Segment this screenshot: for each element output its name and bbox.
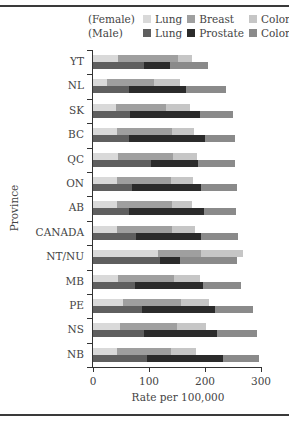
female-stacked-bar bbox=[93, 275, 200, 282]
y-tick-label: BC bbox=[68, 128, 84, 140]
y-tick-label: NT/NU bbox=[46, 250, 84, 262]
y-tick bbox=[87, 74, 92, 75]
bar-segment bbox=[129, 135, 205, 142]
male-stacked-bar bbox=[93, 86, 226, 93]
y-tick-label: NL bbox=[68, 79, 84, 91]
y-tick-label: AB bbox=[69, 201, 84, 213]
female-stacked-bar bbox=[93, 323, 206, 330]
y-tick bbox=[87, 172, 92, 173]
bar-segment bbox=[147, 355, 223, 362]
bar-segment bbox=[117, 128, 172, 135]
bar-segment bbox=[160, 257, 180, 264]
female-stacked-bar bbox=[93, 226, 195, 233]
bar-segment bbox=[132, 184, 201, 191]
x-axis-title: Rate per 100,000 bbox=[93, 391, 263, 403]
x-tick-label: 300 bbox=[251, 375, 271, 387]
legend-female-colorectal: Colorectal bbox=[249, 12, 289, 26]
bar-segment bbox=[178, 55, 192, 62]
bar-segment bbox=[93, 104, 116, 111]
x-tick bbox=[261, 367, 262, 372]
legend-female-label: (Female) bbox=[88, 12, 143, 26]
bar-segment bbox=[93, 233, 136, 240]
bar-segment bbox=[223, 355, 259, 362]
bar-segment bbox=[117, 348, 171, 355]
female-stacked-bar bbox=[93, 250, 243, 257]
bar-segment bbox=[93, 55, 118, 62]
swatch-female-breast bbox=[187, 15, 195, 23]
bar-segment bbox=[93, 306, 142, 313]
female-stacked-bar bbox=[93, 153, 197, 160]
bar-segment bbox=[151, 160, 198, 167]
male-stacked-bar bbox=[93, 330, 257, 337]
bar-segment bbox=[180, 257, 237, 264]
female-stacked-bar bbox=[93, 299, 209, 306]
legend-label: Colorectal bbox=[261, 26, 289, 40]
legend-label: Prostate bbox=[199, 26, 244, 40]
bar-segment bbox=[118, 275, 174, 282]
y-tick-label: YT bbox=[70, 55, 84, 67]
bar-segment bbox=[117, 177, 171, 184]
y-tick bbox=[87, 294, 92, 295]
female-stacked-bar bbox=[93, 55, 192, 62]
bottom-rule bbox=[0, 414, 289, 416]
male-stacked-bar bbox=[93, 135, 235, 142]
bar-segment bbox=[158, 250, 201, 257]
y-tick-label: MB bbox=[66, 275, 84, 287]
bar-segment bbox=[142, 306, 214, 313]
bar-segment bbox=[116, 104, 166, 111]
legend-label: Lung bbox=[155, 26, 182, 40]
legend-male-label: (Male) bbox=[88, 26, 143, 40]
bar-segment bbox=[93, 177, 117, 184]
bar-segment bbox=[217, 330, 257, 337]
y-tick-label: SK bbox=[69, 104, 84, 116]
y-tick bbox=[87, 123, 92, 124]
female-stacked-bar bbox=[93, 79, 180, 86]
bar-segment bbox=[93, 135, 129, 142]
male-stacked-bar bbox=[93, 62, 208, 69]
bar-segment bbox=[93, 226, 117, 233]
bar-segment bbox=[93, 79, 107, 86]
bar-segment bbox=[166, 104, 190, 111]
legend: (Female) Lung Breast Colorectal (Male) L… bbox=[88, 12, 289, 40]
bar-segment bbox=[93, 128, 117, 135]
legend-label: Breast bbox=[199, 12, 234, 26]
bar-segment bbox=[93, 250, 158, 257]
bar-segment bbox=[135, 282, 203, 289]
bar-segment bbox=[136, 233, 201, 240]
bar-segment bbox=[93, 153, 118, 160]
legend-female-row: (Female) Lung Breast Colorectal bbox=[88, 12, 289, 26]
y-tick bbox=[87, 318, 92, 319]
y-tick-label: ON bbox=[66, 177, 84, 189]
bar-segment bbox=[171, 177, 193, 184]
bar-segment bbox=[170, 62, 208, 69]
swatch-male-colorectal bbox=[249, 29, 257, 37]
y-tick bbox=[87, 99, 92, 100]
bar-segment bbox=[205, 135, 235, 142]
male-stacked-bar bbox=[93, 208, 236, 215]
legend-male-row: (Male) Lung Prostate Colorectal bbox=[88, 26, 289, 40]
top-rule bbox=[0, 5, 289, 7]
bar-segment bbox=[93, 282, 135, 289]
swatch-female-colorectal bbox=[249, 15, 257, 23]
x-axis bbox=[92, 367, 262, 368]
bar-segment bbox=[181, 299, 209, 306]
bar-segment bbox=[154, 79, 180, 86]
bar-segment bbox=[93, 62, 144, 69]
bar-segment bbox=[117, 226, 172, 233]
bar-segment bbox=[201, 233, 238, 240]
bar-segment bbox=[201, 250, 243, 257]
bar-segment bbox=[123, 299, 181, 306]
y-tick bbox=[87, 245, 92, 246]
bar-segment bbox=[117, 201, 172, 208]
bar-segment bbox=[172, 201, 192, 208]
bar-segment bbox=[198, 160, 235, 167]
bar-segment bbox=[93, 299, 123, 306]
bar-segment bbox=[93, 111, 130, 118]
legend-label: Lung bbox=[155, 12, 182, 26]
male-stacked-bar bbox=[93, 160, 235, 167]
bar-segment bbox=[144, 330, 217, 337]
female-stacked-bar bbox=[93, 128, 194, 135]
bar-segment bbox=[129, 208, 204, 215]
male-stacked-bar bbox=[93, 355, 259, 362]
y-tick bbox=[87, 343, 92, 344]
